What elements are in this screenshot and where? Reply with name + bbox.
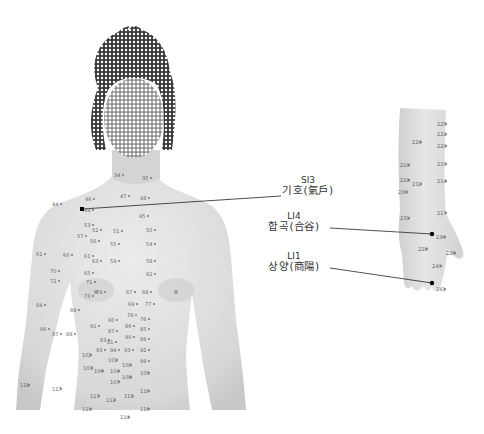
- acupoint-number: 236: [436, 234, 446, 240]
- callout-li1: LI1 상양(商陽): [258, 252, 330, 272]
- acupoint-dot: [148, 197, 150, 199]
- acupoint-dot: [136, 303, 138, 305]
- acupoint-number: 118: [20, 382, 30, 388]
- acupoint-number: 68: [142, 289, 148, 295]
- callout-si3: SI3 기호(氣戶): [272, 176, 344, 196]
- acupoint-number: 47: [120, 193, 126, 199]
- acupoint-number: 100: [122, 362, 132, 368]
- acupoint-dot: [104, 349, 106, 351]
- acupoint-dot: [118, 243, 120, 245]
- acupoint-number: 104: [110, 368, 120, 374]
- acupoint-number: 88: [66, 331, 72, 337]
- acupoint-number: 99: [140, 358, 146, 364]
- point-li4-marker: [430, 232, 434, 236]
- acupoint-number: 44: [52, 201, 58, 207]
- acupoint-number: 101: [108, 357, 118, 363]
- acupoint-dot: [150, 177, 152, 179]
- acupoint-number: 80: [108, 317, 114, 323]
- acupoint-dot: [150, 291, 152, 293]
- acupoint-number: 85: [140, 326, 146, 332]
- body-illustration: [0, 0, 484, 434]
- acupoint-number: 52: [92, 227, 98, 233]
- acupoint-number: 48: [140, 195, 146, 201]
- acupoint-number: 105: [140, 370, 150, 376]
- acupoint-number: 74: [96, 289, 102, 295]
- acupoint-dot: [92, 255, 94, 257]
- acupoint-dot: [100, 229, 102, 231]
- acupoint-dot: [148, 360, 150, 362]
- acupoint-dot: [122, 174, 124, 176]
- acupoint-number: 86: [40, 326, 46, 332]
- acupoint-number: 34: [114, 172, 120, 178]
- acupoint-number: 59: [110, 258, 116, 264]
- acupoint-number: 110: [140, 388, 150, 394]
- acupoint-number: 53: [84, 222, 90, 228]
- acupoint-number: 69: [128, 301, 134, 307]
- acupoint-dot: [148, 318, 150, 320]
- acupoint-number: 216: [400, 162, 410, 168]
- acupoint-number: 46: [85, 196, 91, 202]
- acupoint-dot: [100, 260, 102, 262]
- acupoint-number: 87: [52, 331, 58, 337]
- acupoint-dot: [94, 281, 96, 283]
- acupoint-dot: [92, 224, 94, 226]
- acupoint-dot: [134, 291, 136, 293]
- acupoint-number: 60: [63, 252, 69, 258]
- acupoint-number: 90: [125, 334, 131, 340]
- acupoint-dot: [93, 198, 95, 200]
- acupoint-number: 232: [412, 181, 422, 187]
- acupoint-number: 114: [120, 414, 130, 420]
- acupoint-dot: [60, 333, 62, 335]
- acupoint-number: 61: [36, 251, 42, 257]
- callout-li4-name: 합곡(合谷): [258, 221, 330, 232]
- acupoint-dot: [98, 240, 100, 242]
- acupoint-number: 87: [108, 328, 114, 334]
- acupoint-number: 226: [446, 250, 456, 256]
- acupoint-number: 93: [96, 347, 102, 353]
- acupoint-dot: [98, 325, 100, 327]
- acupoint-number: 58: [146, 258, 152, 264]
- acupoint-dot: [153, 303, 155, 305]
- acupoint-number: 45: [139, 213, 145, 219]
- acupoint-number: 231: [400, 215, 410, 221]
- acupoint-number: 119: [82, 406, 92, 412]
- point-li1-marker: [430, 281, 434, 285]
- acupoint-dot: [92, 295, 94, 297]
- acupoint-number: 51: [113, 228, 119, 234]
- acupoint-number: 214: [437, 178, 447, 184]
- acupoint-number: 225: [437, 121, 447, 127]
- acupoint-dot: [85, 235, 87, 237]
- acupoint-number: 93: [124, 347, 130, 353]
- acupoint-dot: [116, 319, 118, 321]
- acupoint-number: 50: [146, 227, 152, 233]
- callout-li4: LI4 합곡(合谷): [258, 212, 330, 232]
- acupoint-number: 107: [110, 379, 120, 385]
- acupoint-number: 83: [100, 337, 106, 343]
- acupoint-dot: [116, 330, 118, 332]
- acupoint-dot: [71, 254, 73, 256]
- acupoint-number: 89: [70, 307, 76, 313]
- acupoint-number: 76: [140, 316, 146, 322]
- acupoint-dot: [78, 309, 80, 311]
- acupoint-dot: [115, 341, 117, 343]
- acupoint-dot: [147, 215, 149, 217]
- acupoint-number: 71: [86, 279, 92, 285]
- acupoint-dot: [48, 328, 50, 330]
- acupoint-number: 94: [110, 347, 116, 353]
- acupoint-number: 77: [145, 301, 151, 307]
- acupoint-number: 61: [84, 253, 90, 259]
- acupoint-dot: [154, 243, 156, 245]
- acupoint-number: 89: [140, 336, 146, 342]
- acupoint-number: 108: [122, 374, 132, 380]
- acupoint-dot: [104, 291, 106, 293]
- acupoint-dot: [128, 195, 130, 197]
- acupoint-number: 86: [125, 323, 131, 329]
- acupoint-number: 57: [77, 233, 83, 239]
- acupoint-number: 81: [107, 339, 113, 345]
- acupoint-number: 230: [398, 189, 408, 195]
- acupoint-number: 113: [90, 393, 100, 399]
- acupoint-number: 103: [83, 365, 93, 371]
- acupoint-dot: [74, 333, 76, 335]
- acupoint-number: 228: [418, 246, 428, 252]
- acupuncture-figure: 3435444647484549535251505756555461606163…: [0, 0, 484, 434]
